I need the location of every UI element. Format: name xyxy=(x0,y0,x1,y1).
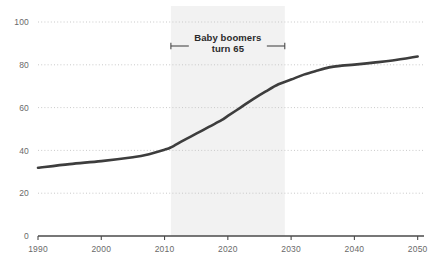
x-axis-tick-label: 2050 xyxy=(408,244,428,254)
x-axis-tick-label: 2000 xyxy=(91,244,111,254)
annotation-label-line1: Baby boomers xyxy=(194,32,261,43)
y-axis-tick-label: 80 xyxy=(19,60,29,70)
y-axis-tick-label: 60 xyxy=(19,103,29,113)
x-axis-tick-label: 2010 xyxy=(155,244,175,254)
x-axis-tick-label: 2030 xyxy=(281,244,301,254)
y-axis-tick-label: 0 xyxy=(24,231,29,241)
y-axis-tick-label: 100 xyxy=(14,17,29,27)
y-axis-tick-label: 20 xyxy=(19,188,29,198)
x-axis-tick-label: 2020 xyxy=(218,244,238,254)
x-axis-tick-label: 2040 xyxy=(345,244,365,254)
y-axis-tick-label: 40 xyxy=(19,146,29,156)
annotation-label-line2: turn 65 xyxy=(212,43,245,54)
x-axis-tick-label: 1990 xyxy=(28,244,48,254)
chart-container: 020406080100 199020002010202020302040205… xyxy=(0,0,434,261)
line-chart: 020406080100 199020002010202020302040205… xyxy=(0,0,434,261)
